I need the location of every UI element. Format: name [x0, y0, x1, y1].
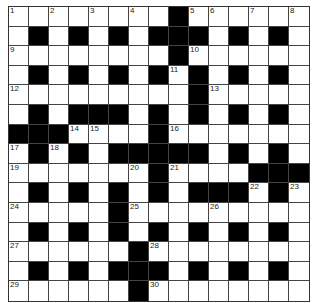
grid-cell[interactable]: 9	[9, 46, 29, 66]
grid-cell[interactable]	[49, 183, 69, 203]
grid-cell[interactable]	[129, 125, 149, 145]
grid-cell[interactable]: 28	[149, 242, 169, 262]
grid-cell[interactable]	[149, 203, 169, 223]
grid-cell[interactable]	[9, 223, 29, 243]
grid-cell[interactable]	[89, 223, 109, 243]
grid-cell[interactable]	[49, 46, 69, 66]
grid-cell[interactable]	[29, 281, 49, 301]
grid-cell[interactable]	[109, 46, 129, 66]
grid-cell[interactable]	[289, 66, 309, 86]
grid-cell[interactable]	[29, 7, 49, 27]
grid-cell[interactable]	[209, 105, 229, 125]
grid-cell[interactable]	[269, 85, 289, 105]
grid-cell[interactable]	[129, 27, 149, 47]
grid-cell[interactable]	[169, 183, 189, 203]
grid-cell[interactable]	[89, 242, 109, 262]
grid-cell[interactable]	[289, 262, 309, 282]
grid-cell[interactable]	[69, 281, 89, 301]
grid-cell[interactable]	[89, 27, 109, 47]
grid-cell[interactable]	[249, 223, 269, 243]
grid-cell[interactable]	[289, 223, 309, 243]
grid-cell[interactable]	[269, 7, 289, 27]
grid-cell[interactable]: 13	[209, 85, 229, 105]
grid-cell[interactable]	[269, 203, 289, 223]
grid-cell[interactable]	[169, 105, 189, 125]
grid-cell[interactable]	[189, 203, 209, 223]
grid-cell[interactable]	[69, 46, 89, 66]
grid-cell[interactable]	[109, 242, 129, 262]
grid-cell[interactable]	[29, 242, 49, 262]
grid-cell[interactable]	[229, 203, 249, 223]
grid-cell[interactable]	[289, 242, 309, 262]
grid-cell[interactable]	[109, 7, 129, 27]
grid-cell[interactable]	[89, 46, 109, 66]
grid-cell[interactable]: 22	[249, 183, 269, 203]
grid-cell[interactable]: 29	[9, 281, 29, 301]
grid-cell[interactable]: 16	[169, 125, 189, 145]
grid-cell[interactable]	[209, 242, 229, 262]
grid-cell[interactable]	[9, 27, 29, 47]
grid-cell[interactable]	[249, 27, 269, 47]
grid-cell[interactable]	[9, 262, 29, 282]
grid-cell[interactable]	[49, 223, 69, 243]
grid-cell[interactable]: 8	[289, 7, 309, 27]
grid-cell[interactable]	[289, 203, 309, 223]
grid-cell[interactable]: 12	[9, 85, 29, 105]
grid-cell[interactable]	[49, 164, 69, 184]
grid-cell[interactable]	[9, 183, 29, 203]
grid-cell[interactable]	[89, 281, 109, 301]
grid-cell[interactable]	[189, 281, 209, 301]
grid-cell[interactable]	[49, 203, 69, 223]
grid-cell[interactable]	[289, 125, 309, 145]
grid-cell[interactable]	[249, 125, 269, 145]
grid-cell[interactable]	[289, 105, 309, 125]
grid-cell[interactable]	[149, 85, 169, 105]
grid-cell[interactable]	[229, 46, 249, 66]
grid-cell[interactable]	[229, 281, 249, 301]
grid-cell[interactable]	[209, 66, 229, 86]
grid-cell[interactable]	[9, 105, 29, 125]
grid-cell[interactable]	[169, 203, 189, 223]
grid-cell[interactable]	[29, 46, 49, 66]
grid-cell[interactable]	[49, 105, 69, 125]
grid-cell[interactable]	[209, 281, 229, 301]
grid-cell[interactable]	[129, 66, 149, 86]
grid-cell[interactable]	[129, 85, 149, 105]
grid-cell[interactable]	[69, 7, 89, 27]
grid-cell[interactable]	[109, 125, 129, 145]
grid-cell[interactable]: 17	[9, 144, 29, 164]
grid-cell[interactable]	[29, 164, 49, 184]
grid-cell[interactable]	[289, 27, 309, 47]
grid-cell[interactable]	[229, 242, 249, 262]
grid-cell[interactable]: 26	[209, 203, 229, 223]
grid-cell[interactable]	[89, 203, 109, 223]
grid-cell[interactable]	[49, 242, 69, 262]
grid-cell[interactable]	[109, 85, 129, 105]
grid-cell[interactable]: 20	[129, 164, 149, 184]
grid-cell[interactable]	[209, 164, 229, 184]
grid-cell[interactable]: 18	[49, 144, 69, 164]
grid-cell[interactable]	[9, 66, 29, 86]
grid-cell[interactable]	[169, 85, 189, 105]
grid-cell[interactable]	[129, 183, 149, 203]
grid-cell[interactable]	[289, 46, 309, 66]
grid-cell[interactable]	[89, 144, 109, 164]
grid-cell[interactable]	[149, 46, 169, 66]
grid-cell[interactable]: 21	[169, 164, 189, 184]
grid-cell[interactable]	[29, 203, 49, 223]
grid-cell[interactable]: 2	[49, 7, 69, 27]
grid-cell[interactable]	[229, 7, 249, 27]
grid-cell[interactable]: 4	[129, 7, 149, 27]
grid-cell[interactable]: 3	[89, 7, 109, 27]
grid-cell[interactable]	[289, 144, 309, 164]
grid-cell[interactable]	[209, 46, 229, 66]
grid-cell[interactable]	[69, 203, 89, 223]
grid-cell[interactable]: 23	[289, 183, 309, 203]
grid-cell[interactable]: 30	[149, 281, 169, 301]
grid-cell[interactable]: 1	[9, 7, 29, 27]
grid-cell[interactable]	[109, 164, 129, 184]
grid-cell[interactable]	[109, 281, 129, 301]
grid-cell[interactable]	[149, 7, 169, 27]
grid-cell[interactable]: 11	[169, 66, 189, 86]
grid-cell[interactable]	[229, 164, 249, 184]
